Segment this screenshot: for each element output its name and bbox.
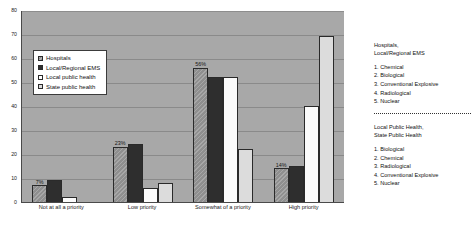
bar[interactable]: 56% — [193, 68, 208, 202]
notes-list-item: 1. Biological — [374, 145, 472, 154]
notes-list-item: 2. Chemical — [374, 154, 472, 163]
notes-list-item: 4. Conventional Explosive — [374, 171, 472, 180]
notes-list-item: 5. Nuclear — [374, 179, 472, 188]
notes-list-item: 3. Radiological — [374, 162, 472, 171]
bar[interactable] — [158, 183, 173, 202]
legend-item-label: Local/Regional EMS — [46, 65, 100, 71]
bar-value-label: 23% — [115, 141, 126, 146]
legend-item[interactable]: Hospitals — [38, 55, 100, 61]
notes-heading-line1: Local Public Health, — [374, 123, 472, 131]
notes-list-item: 5. Nuclear — [374, 97, 472, 106]
bar[interactable]: 14% — [274, 168, 289, 202]
notes-list-item: 4. Radiological — [374, 89, 472, 98]
notes-panel: Hospitals, Local/Regional EMS 1. Chemica… — [360, 0, 475, 235]
legend-swatch-icon — [38, 56, 43, 61]
y-axis-tick-label: 60 — [11, 56, 17, 61]
bar[interactable] — [47, 180, 62, 202]
bar-value-label: 14% — [276, 163, 287, 168]
bar-group: 14% — [264, 11, 345, 202]
bar[interactable] — [289, 166, 304, 202]
bar[interactable] — [208, 77, 223, 202]
notes-heading-line2: Local/Regional EMS — [374, 49, 472, 57]
bar[interactable] — [223, 77, 238, 202]
x-axis: Not at all a priorityLow prioritySomewha… — [21, 205, 344, 211]
bar-groups: 7%23%56%14% — [22, 11, 344, 202]
y-axis-tick-label: 80 — [11, 8, 17, 13]
y-axis-tick-label: 20 — [11, 152, 17, 157]
legend-swatch-icon — [38, 75, 43, 80]
bar-group: 56% — [183, 11, 264, 202]
notes-block-public-health: Local Public Health, State Public Health… — [374, 123, 472, 188]
notes-list-item: 2. Biological — [374, 71, 472, 80]
bar[interactable] — [128, 144, 143, 202]
notes-divider — [374, 113, 472, 114]
notes-block-hospitals-ems: Hospitals, Local/Regional EMS 1. Chemica… — [374, 41, 472, 106]
legend-item[interactable]: Local/Regional EMS — [38, 65, 100, 71]
bar[interactable] — [62, 197, 77, 202]
x-axis-tick-label: Somewhat of a priority — [183, 205, 264, 211]
bar-value-label: 7% — [36, 180, 44, 185]
legend-swatch-icon — [38, 84, 43, 89]
plot-area: 7%23%56%14% — [21, 11, 344, 203]
bar-group: 7% — [22, 11, 103, 202]
legend-item-label: Local public health — [46, 74, 96, 80]
bar[interactable] — [319, 36, 334, 202]
legend-item[interactable]: Local public health — [38, 74, 100, 80]
notes-list-hospitals-ems: 1. Chemical2. Biological3. Conventional … — [374, 63, 472, 106]
bar-value-label: 56% — [195, 62, 206, 67]
bar[interactable]: 7% — [32, 185, 47, 202]
notes-heading-line2: State Public Health — [374, 131, 472, 139]
bar[interactable] — [143, 188, 158, 202]
y-axis-tick-label: 0 — [14, 200, 17, 205]
chart-legend: HospitalsLocal/Regional EMSLocal public … — [33, 50, 107, 95]
bar[interactable] — [304, 106, 319, 202]
bar-chart: 01020304050607080 7%23%56%14% Not at all… — [0, 0, 360, 235]
y-axis-tick-label: 50 — [11, 80, 17, 85]
y-axis-tick-label: 70 — [11, 32, 17, 37]
notes-list-item: 1. Chemical — [374, 63, 472, 72]
y-axis-tick-label: 40 — [11, 104, 17, 109]
bar[interactable]: 23% — [113, 147, 128, 202]
bar[interactable] — [238, 149, 253, 202]
x-axis-tick-label: Not at all a priority — [21, 205, 102, 211]
legend-item-label: Hospitals — [46, 55, 71, 61]
legend-swatch-icon — [38, 65, 43, 70]
notes-heading-line1: Hospitals, — [374, 41, 472, 49]
bar-group: 23% — [103, 11, 184, 202]
notes-list-public-health: 1. Biological2. Chemical3. Radiological4… — [374, 145, 472, 188]
y-axis: 01020304050607080 — [0, 11, 19, 203]
notes-list-item: 3. Conventional Explosive — [374, 80, 472, 89]
y-axis-tick-label: 30 — [11, 128, 17, 133]
x-axis-tick-label: Low priority — [102, 205, 183, 211]
y-axis-tick-label: 10 — [11, 176, 17, 181]
x-axis-tick-label: High priority — [263, 205, 344, 211]
legend-item-label: State public health — [46, 84, 95, 90]
legend-item[interactable]: State public health — [38, 84, 100, 90]
